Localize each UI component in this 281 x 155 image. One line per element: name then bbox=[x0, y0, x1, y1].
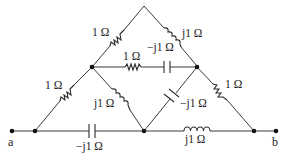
wire-inner-right-a bbox=[144, 99, 170, 131]
wire-lower-left-a bbox=[35, 101, 60, 131]
node-middle-right bbox=[195, 65, 200, 70]
label-inductor-inner-left: j1 Ω bbox=[93, 97, 114, 110]
label-resistor-lower-left: 1 Ω bbox=[45, 79, 62, 91]
inductor-bottom-icon bbox=[184, 127, 210, 131]
terminal-b-node bbox=[274, 129, 279, 134]
resistor-middle-icon bbox=[125, 64, 141, 70]
label-inductor-bottom: j1 Ω bbox=[184, 133, 205, 146]
terminal-b-label: b bbox=[272, 135, 278, 149]
wire-right-b bbox=[227, 100, 254, 131]
node-middle-left bbox=[90, 65, 95, 70]
wire-inner-left-b bbox=[130, 110, 144, 131]
terminal-a-node bbox=[10, 129, 15, 134]
circuit-diagram: 1 Ω j1 Ω 1 Ω −j1 Ω 1 Ω j1 Ω −j1 Ω 1 Ω −j… bbox=[0, 0, 281, 155]
label-resistor-right: 1 Ω bbox=[225, 78, 242, 90]
wire-upper-left-b bbox=[124, 6, 144, 30]
wire-upper-right-b bbox=[181, 47, 197, 66]
inductor-inner-left-icon bbox=[112, 89, 130, 110]
wire-upper-right-a bbox=[144, 6, 164, 28]
wire-right-a bbox=[197, 67, 213, 84]
capacitor-inner-right-plate-2-icon bbox=[169, 89, 179, 97]
label-capacitor-bottom: −j1 Ω bbox=[76, 140, 103, 153]
node-bottom-middle bbox=[142, 129, 147, 134]
label-capacitor-middle: −j1 Ω bbox=[147, 41, 174, 54]
node-right bbox=[252, 129, 257, 134]
resistor-upper-left-icon bbox=[110, 30, 124, 46]
terminal-a-label: a bbox=[8, 135, 14, 149]
node-left bbox=[33, 129, 38, 134]
wire-upper-left-a bbox=[92, 46, 110, 67]
label-resistor-upper-left: 1 Ω bbox=[92, 26, 109, 38]
label-resistor-middle: 1 Ω bbox=[123, 50, 140, 62]
wire-inner-right-b bbox=[176, 67, 197, 93]
label-capacitor-inner-right: −j1 Ω bbox=[180, 97, 207, 110]
label-inductor-upper-right: j1 Ω bbox=[181, 27, 202, 40]
wire-inner-left-a bbox=[92, 67, 112, 89]
wire-lower-left-b bbox=[74, 67, 92, 85]
